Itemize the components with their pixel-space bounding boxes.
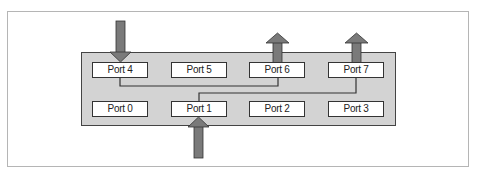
port-1: Port 1 [171, 101, 227, 117]
arrow-out-port7-icon [345, 33, 368, 63]
port-0: Port 0 [92, 101, 148, 117]
port-6: Port 6 [249, 62, 305, 78]
arrow-out-port6-icon [266, 33, 289, 63]
port-4: Port 4 [92, 62, 148, 78]
port-7: Port 7 [328, 62, 384, 78]
connection-lines [0, 0, 478, 175]
port-2: Port 2 [249, 101, 305, 117]
port-5: Port 5 [171, 62, 227, 78]
port-3: Port 3 [328, 101, 384, 117]
arrow-in-port4-icon [110, 21, 131, 62]
arrow-in-port1-icon [188, 117, 209, 158]
